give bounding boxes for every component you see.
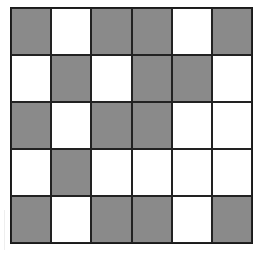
grid-cell-r4-c2[interactable] [51,149,91,196]
grid-cell-r5-c6[interactable] [212,196,252,243]
grid-cell-r3-c2[interactable] [51,102,91,149]
grid-cell-r1-c6[interactable] [212,8,252,55]
grid-cell-r1-c4[interactable] [132,8,172,55]
grid-cell-r5-c5[interactable] [172,196,212,243]
grid-cell-r2-c1[interactable] [11,55,51,102]
grid-cell-r4-c5[interactable] [172,149,212,196]
grid-cell-r5-c4[interactable] [132,196,172,243]
grid-cell-r3-c5[interactable] [172,102,212,149]
grid-cell-r3-c6[interactable] [212,102,252,149]
grid-cell-r5-c2[interactable] [51,196,91,243]
grid-cell-r2-c6[interactable] [212,55,252,102]
grid-cell-r1-c1[interactable] [11,8,51,55]
grid-cell-r3-c1[interactable] [11,102,51,149]
grid-cell-r3-c3[interactable] [91,102,131,149]
grid-cell-r2-c4[interactable] [132,55,172,102]
grid-cell-r1-c2[interactable] [51,8,91,55]
tile-grid [10,7,253,244]
grid-cell-r5-c1[interactable] [11,196,51,243]
grid-cell-r4-c4[interactable] [132,149,172,196]
grid-cell-r2-c2[interactable] [51,55,91,102]
grid-cell-r5-c3[interactable] [91,196,131,243]
grid-cell-r4-c3[interactable] [91,149,131,196]
grid-cell-r2-c3[interactable] [91,55,131,102]
grid-cell-r4-c6[interactable] [212,149,252,196]
grid-cell-r2-c5[interactable] [172,55,212,102]
grid-cell-r1-c5[interactable] [172,8,212,55]
edge-line [4,210,5,250]
grid-cell-r3-c4[interactable] [132,102,172,149]
grid-cell-r4-c1[interactable] [11,149,51,196]
grid-cell-r1-c3[interactable] [91,8,131,55]
